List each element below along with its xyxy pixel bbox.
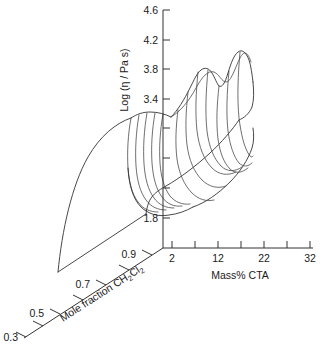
z-tick-label-0.3: 0.3 <box>3 331 18 343</box>
y-axis-title: Log (η / Pa s) <box>118 48 130 111</box>
surface-contour-l3 <box>144 113 174 208</box>
y-tick-label-4.2: 4.2 <box>143 34 158 46</box>
viscosity-surface-figure: 4.6 4.2 3.8 3.4 1.8 Log (η / Pa s) 2 12 … <box>0 0 323 355</box>
x-tick-label-12: 12 <box>212 252 224 264</box>
y-tick-label-4.6: 4.6 <box>143 4 158 16</box>
surface-mesh-m1 <box>176 110 214 201</box>
z-tick-0.9 <box>142 250 152 255</box>
z-axis-title-prefix: Mole fraction CH <box>58 271 130 324</box>
surface-plateau-top-rim <box>131 112 171 118</box>
z-axis: 0.9 0.7 0.5 0.3 Mole fraction CH2Cl2 0.9 <box>3 248 163 343</box>
x-tick-label-32: 32 <box>304 252 316 264</box>
z-tick-label-0.5: 0.5 <box>29 307 44 319</box>
y-tick-label-3.4: 3.4 <box>143 93 158 105</box>
z-axis-title: Mole fraction CH2Cl2 <box>58 261 147 326</box>
x-axis-title: Mass% CTA <box>211 269 269 281</box>
y-tick-label-3.8: 3.8 <box>143 63 158 75</box>
y-tick-label-1.8: 1.8 <box>143 212 158 224</box>
surface-front-bottom-edge <box>58 214 146 272</box>
surface-wireframe <box>58 51 254 272</box>
x-tick-label-22: 22 <box>258 252 270 264</box>
y-axis: 4.6 4.2 3.8 3.4 1.8 Log (η / Pa s) <box>118 4 170 248</box>
z-tick-label-0.9: 0.9 <box>121 248 136 260</box>
x-axis: 2 12 22 32 Mass% CTA <box>163 241 316 281</box>
surface-right-edge <box>239 82 254 120</box>
z-tick-label-0.7: 0.7 <box>75 278 90 290</box>
z-tick-0.4 <box>33 321 43 326</box>
surface-mesh-m4 <box>206 70 242 171</box>
x-tick-label-2: 2 <box>169 252 175 264</box>
surface-left-edge <box>58 118 131 272</box>
surface-plot-svg: 4.6 4.2 3.8 3.4 1.8 Log (η / Pa s) 2 12 … <box>0 0 323 355</box>
